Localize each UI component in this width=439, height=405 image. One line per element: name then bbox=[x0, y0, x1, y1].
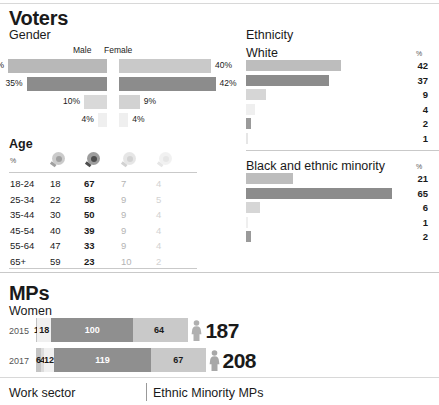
gender-pct-female: 40% bbox=[215, 60, 232, 70]
gender-bar-male bbox=[8, 59, 107, 73]
rosette-icon-party-4 bbox=[157, 152, 174, 171]
ethnicity-bar bbox=[246, 217, 248, 228]
ethnicity-value-bme: 65 bbox=[412, 188, 428, 199]
gender-row: 10%9% bbox=[0, 95, 225, 109]
age-band: 25-34 bbox=[10, 194, 34, 205]
ethnicity-bar bbox=[246, 60, 341, 71]
mp-bar-segment: 12 bbox=[44, 348, 54, 372]
age-value-party-4: 2 bbox=[156, 256, 161, 267]
ethnicity-bar-row-bme bbox=[246, 202, 416, 213]
mp-year-label: 2017 bbox=[9, 356, 29, 366]
ethnicity-subtitle: Ethnicity bbox=[246, 29, 293, 42]
mp-segment-label: 100 bbox=[51, 318, 133, 342]
bottom-divider bbox=[0, 377, 439, 378]
age-value-party-3: 10 bbox=[121, 256, 132, 267]
age-percent-symbol: % bbox=[10, 157, 16, 164]
rosette-icon-party-3 bbox=[121, 152, 138, 171]
ethnicity-bar-row-bme bbox=[246, 217, 416, 228]
ethnicity-bar bbox=[246, 118, 251, 129]
ethnicity-bar-row-white bbox=[246, 75, 416, 86]
age-value-party-4: 4 bbox=[156, 178, 161, 189]
gender-subtitle: Gender bbox=[9, 29, 51, 42]
ethnicity-value-white: 9 bbox=[412, 89, 428, 100]
ethnicity-group-label-bme: Black and ethnic minority bbox=[246, 160, 385, 173]
age-value-party-3: 9 bbox=[121, 209, 126, 220]
age-value-party-3: 9 bbox=[121, 225, 126, 236]
age-band: 18-24 bbox=[10, 178, 34, 189]
gender-pct-male: 4% bbox=[82, 114, 94, 124]
gender-column-female: Female bbox=[104, 45, 132, 55]
age-value-party-1: 22 bbox=[50, 194, 61, 205]
ethnicity-value-bme: 2 bbox=[412, 231, 428, 242]
age-table-row: 18-24186774 bbox=[9, 176, 209, 192]
age-value-party-3: 7 bbox=[121, 178, 126, 189]
mp-year-label: 2015 bbox=[9, 326, 29, 336]
gender-pct-female: 9% bbox=[144, 96, 156, 106]
age-value-party-1: 40 bbox=[50, 225, 61, 236]
age-value-party-2: 67 bbox=[84, 178, 95, 189]
age-value-party-3: 9 bbox=[121, 194, 126, 205]
ethnicity-value-bme: 1 bbox=[412, 217, 428, 228]
gender-column-male: Male bbox=[73, 45, 91, 55]
ethnicity-bar-row-bme bbox=[246, 173, 416, 184]
footer-vertical-divider bbox=[146, 383, 147, 401]
section-title-mps: MPs bbox=[9, 283, 49, 303]
ethnicity-value-white: 4 bbox=[412, 104, 428, 115]
ethnicity-bar-row-white bbox=[246, 89, 416, 100]
mp-stacked-bar: 641211967 bbox=[36, 348, 206, 372]
gender-pct-female: 4% bbox=[132, 114, 144, 124]
mp-stacked-bar: 11810064 bbox=[36, 318, 188, 342]
age-value-party-2: 50 bbox=[84, 209, 95, 220]
mp-bar-segment: 100 bbox=[51, 318, 133, 342]
mp-total-value: 208 bbox=[223, 349, 257, 373]
age-value-party-4: 4 bbox=[156, 240, 161, 251]
gender-bar-male bbox=[27, 77, 108, 91]
gender-pct-male: 43% bbox=[0, 60, 4, 70]
age-value-party-2: 33 bbox=[84, 240, 95, 251]
mps-section-divider bbox=[0, 272, 439, 273]
age-value-party-2: 23 bbox=[84, 256, 95, 267]
gender-row: 35%42% bbox=[0, 77, 225, 91]
ethnicity-bar bbox=[246, 202, 260, 213]
ethnicity-group-label-white: White bbox=[246, 47, 278, 60]
rosette-icon-party-1 bbox=[50, 152, 67, 171]
age-value-party-1: 47 bbox=[50, 240, 61, 251]
mp-segment-label: 64 bbox=[133, 318, 185, 342]
ethnicity-bar-row-white bbox=[246, 118, 416, 129]
ethnicity-value-white: 2 bbox=[412, 118, 428, 129]
footer-label-work-sector: Work sector bbox=[9, 386, 75, 400]
gender-row: 4%4% bbox=[0, 113, 225, 127]
age-bottom-rule bbox=[9, 268, 197, 269]
ethnicity-bar bbox=[246, 173, 293, 184]
top-divider bbox=[0, 3, 439, 4]
age-table-row: 45-54403994 bbox=[9, 223, 209, 239]
ethnicity-bar-row-white bbox=[246, 60, 416, 71]
age-value-party-1: 59 bbox=[50, 256, 61, 267]
ethnicity-bar-row-bme bbox=[246, 231, 416, 242]
mp-segment-label: 67 bbox=[151, 348, 206, 372]
mp-total-value: 187 bbox=[205, 319, 239, 343]
gender-pct-male: 35% bbox=[5, 78, 22, 88]
age-value-party-2: 39 bbox=[84, 225, 95, 236]
footer-label-ethnic-minority-mps: Ethnic Minority MPs bbox=[153, 386, 263, 400]
gender-bar-female bbox=[119, 77, 216, 91]
age-subtitle: Age bbox=[9, 138, 33, 151]
mp-segment-label: 12 bbox=[44, 348, 54, 372]
gender-bar-female bbox=[119, 59, 211, 73]
age-value-party-1: 30 bbox=[50, 209, 61, 220]
age-table-row: 55-64473394 bbox=[9, 238, 209, 254]
women-subtitle: Women bbox=[9, 305, 52, 318]
ethnicity-value-white: 1 bbox=[412, 133, 428, 144]
age-band: 35-44 bbox=[10, 209, 34, 220]
mp-bar-row: 2017641211967208 bbox=[0, 348, 439, 374]
ethnicity-bar bbox=[246, 104, 255, 115]
female-figure-icon bbox=[190, 320, 203, 341]
female-figure-icon bbox=[208, 350, 221, 371]
age-header-rule bbox=[9, 172, 197, 173]
age-table-header: % bbox=[9, 152, 209, 172]
ethnicity-bar-row-white bbox=[246, 104, 416, 115]
gender-bar-female bbox=[119, 113, 128, 127]
age-value-party-4: 5 bbox=[156, 194, 161, 205]
ethnicity-value-bme: 6 bbox=[412, 202, 428, 213]
mp-bar-row: 201511810064187 bbox=[0, 318, 439, 344]
